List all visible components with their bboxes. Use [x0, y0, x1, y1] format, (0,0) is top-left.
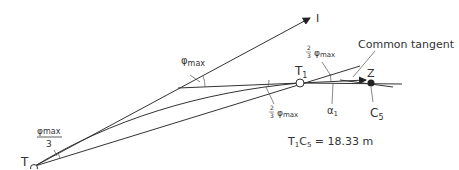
label-T: T: [20, 155, 29, 169]
two-thirds-phi-upper-leader: [322, 62, 331, 76]
label-Z: Z: [367, 67, 375, 80]
label-common-tangent: Common tangent: [358, 38, 455, 51]
back-tangent-line: [178, 83, 300, 88]
label-I: I: [316, 12, 319, 25]
label-two-thirds-phi-lower: φmax: [277, 108, 298, 119]
label-phi-max: φmax: [181, 55, 205, 68]
label-C5: C5: [370, 106, 383, 122]
label-phi-max-over-3-numerator: φmax: [37, 126, 61, 136]
label-measurement-T1C5: T1C5 = 18.33 m: [287, 135, 373, 149]
alpha1-leader: [332, 84, 333, 104]
point-T1-marker: [296, 79, 304, 87]
two-thirds-upper-den: 3: [307, 52, 311, 59]
c5-leader: [371, 87, 373, 102]
transition-curve-diagram: T I T1 Z C5 φmax φmax 3 2 3 φmax 2 3 φma…: [0, 0, 459, 169]
main-tangent-line-to-I: [35, 18, 310, 166]
label-alpha1: α1: [327, 105, 338, 118]
two-thirds-upper-num: 2: [307, 44, 311, 51]
two-thirds-lower-den: 3: [270, 112, 274, 119]
point-C5-marker: [368, 80, 375, 87]
label-two-thirds-phi-upper: φmax: [314, 48, 335, 59]
point-T-marker: [31, 165, 38, 170]
phi-max-angle-arc: [203, 76, 205, 87]
chord-line: [35, 66, 360, 166]
two-thirds-lower-num: 2: [270, 104, 274, 111]
common-tangent-line: [300, 83, 402, 84]
label-phi-max-over-3-denominator: 3: [46, 139, 52, 149]
two-thirds-phi-lower-leader: [266, 87, 274, 104]
label-T1: T1: [294, 64, 307, 80]
